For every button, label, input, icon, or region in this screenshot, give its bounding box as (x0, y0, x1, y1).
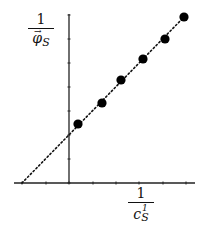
data-point (138, 54, 147, 63)
data-point (97, 98, 106, 107)
vector-arrow-icon: → (34, 23, 42, 39)
data-point (160, 34, 169, 43)
x-label-c: c (133, 206, 141, 222)
x-axis-label: 1 c1S (128, 186, 154, 222)
y-axis-label: 1 → φS (28, 12, 54, 51)
data-point (179, 12, 188, 21)
x-label-fraction-bar (128, 202, 154, 203)
y-label-subscript: S (42, 36, 50, 49)
x-label-numerator: 1 (128, 186, 154, 201)
data-point (73, 119, 82, 128)
y-label-denominator: → φS (28, 30, 54, 51)
x-label-denominator: c1S (128, 204, 154, 222)
data-point (116, 75, 125, 84)
x-label-subscript: S (141, 213, 149, 222)
